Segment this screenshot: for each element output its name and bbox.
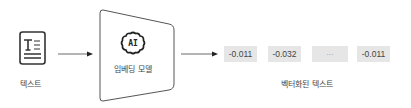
ai-brain-icon: AI	[120, 31, 146, 55]
arrow-right-icon	[58, 50, 94, 58]
embedding-model-shape	[99, 9, 176, 102]
model-label: 임베딩 모델	[114, 63, 152, 74]
svg-text:AI: AI	[128, 39, 138, 48]
vector-ellipsis: ···	[312, 46, 348, 62]
text-document-icon	[19, 31, 46, 65]
vector-value: -0.011	[357, 46, 390, 62]
vector-value: -0.032	[268, 46, 301, 62]
output-label: 벡터화된 텍스트	[281, 78, 333, 89]
arrow-right-icon	[181, 50, 219, 58]
vector-value: -0.011	[224, 46, 257, 62]
input-label: 텍스트	[20, 78, 41, 89]
